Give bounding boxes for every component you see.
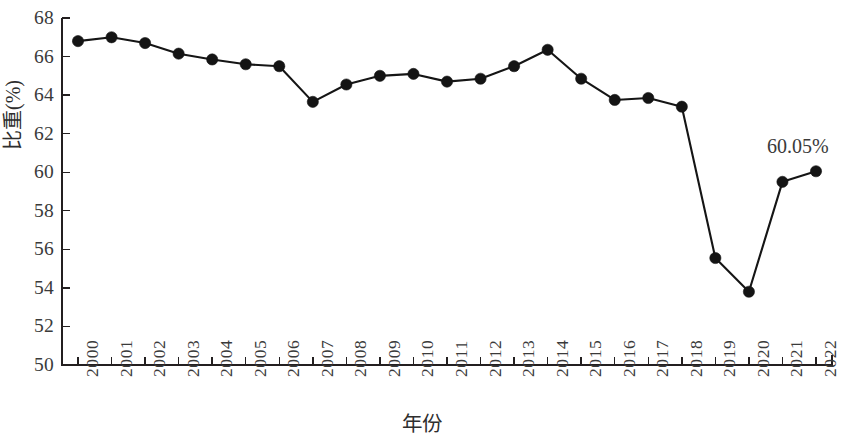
data-point-marker — [743, 286, 754, 297]
series-markers — [72, 32, 821, 298]
axis-frame-line — [62, 18, 832, 365]
y-axis-tick-label: 60 — [4, 162, 54, 182]
data-point-marker — [542, 44, 553, 55]
x-axis-tick-label: 2011 — [453, 340, 471, 377]
x-axis-tick-label: 2003 — [185, 340, 203, 377]
data-point-marker — [508, 61, 519, 72]
data-point-marker — [341, 79, 352, 90]
data-point-marker — [609, 94, 620, 105]
data-point-marker — [106, 32, 117, 43]
x-axis-tick-label: 2004 — [218, 340, 236, 377]
x-axis-tick-label: 2015 — [587, 340, 605, 377]
series-line-path — [78, 37, 816, 291]
data-point-marker — [408, 68, 419, 79]
data-point-marker — [173, 48, 184, 59]
data-point-marker — [441, 76, 452, 87]
y-axis-tick-label: 54 — [4, 278, 54, 298]
data-point-marker — [676, 101, 687, 112]
x-axis-tick-label: 2012 — [487, 340, 505, 377]
x-axis-tick-label: 2009 — [386, 340, 404, 377]
x-axis-tick-label: 2007 — [319, 340, 337, 377]
x-axis-tick-label: 2010 — [419, 340, 437, 377]
x-axis-tick-label: 2002 — [151, 340, 169, 377]
x-axis-tick-label: 2001 — [118, 340, 136, 377]
y-axis-title: 比重(%) — [3, 80, 23, 150]
y-axis-tick-label: 52 — [4, 316, 54, 336]
data-point-marker — [576, 73, 587, 84]
data-point-marker — [810, 166, 821, 177]
y-axis-tick-label: 58 — [4, 201, 54, 221]
x-axis-tick-label: 2018 — [688, 340, 706, 377]
data-point-marker — [710, 252, 721, 263]
data-point-marker — [374, 70, 385, 81]
x-axis-tick-label: 2016 — [621, 340, 639, 377]
x-axis-tick-label: 2019 — [721, 340, 739, 377]
y-axis-tick-label: 68 — [4, 8, 54, 28]
data-point-marker — [207, 54, 218, 65]
data-point-marker — [307, 96, 318, 107]
y-axis-ticks — [62, 18, 70, 365]
x-axis-tick-label: 2008 — [352, 340, 370, 377]
x-axis-tick-label: 2021 — [788, 340, 806, 377]
y-axis-tick-label: 66 — [4, 47, 54, 67]
data-point-marker — [274, 61, 285, 72]
chart-axes — [62, 18, 832, 365]
data-point-marker — [777, 176, 788, 187]
y-axis-tick-label: 56 — [4, 239, 54, 259]
data-point-marker — [643, 92, 654, 103]
x-axis-tick-label: 2014 — [554, 340, 572, 377]
x-axis-tick-label: 2005 — [252, 340, 270, 377]
x-axis-tick-label: 2022 — [822, 340, 840, 377]
x-axis-tick-label: 2017 — [654, 340, 672, 377]
x-axis-title: 年份 — [0, 414, 844, 435]
line-chart-figure: 50525456586062646668 2000200120022003200… — [0, 0, 844, 443]
x-axis-tick-label: 2000 — [84, 340, 102, 377]
data-point-marker — [72, 36, 83, 47]
x-axis-tick-label: 2006 — [285, 340, 303, 377]
last-value-annotation: 60.05% — [767, 136, 829, 156]
x-axis-tick-label: 2020 — [755, 340, 773, 377]
data-point-marker — [240, 59, 251, 70]
data-series-group — [72, 32, 821, 298]
y-axis-tick-label: 50 — [4, 355, 54, 375]
data-point-marker — [139, 37, 150, 48]
data-point-marker — [475, 73, 486, 84]
x-axis-tick-label: 2013 — [520, 340, 538, 377]
